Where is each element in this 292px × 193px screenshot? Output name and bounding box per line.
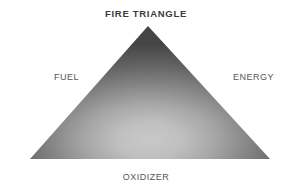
vertex-label-oxidizer: OXIDIZER bbox=[0, 172, 292, 183]
vertex-label-fuel: FUEL bbox=[0, 72, 79, 83]
fire-triangle-diagram: FIRE TRIANGLE FUEL ENERGY OXIDIZER bbox=[0, 0, 292, 193]
triangle-shape bbox=[0, 0, 292, 193]
vertex-label-energy: ENERGY bbox=[233, 72, 292, 83]
triangle-body bbox=[30, 26, 270, 159]
